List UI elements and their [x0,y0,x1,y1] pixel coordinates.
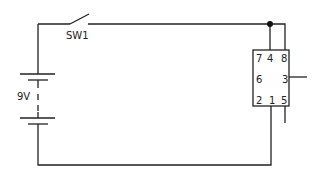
pin-3-label: 3 [282,74,288,85]
pin-5-label: 5 [281,95,287,106]
pin-1-label: 1 [269,95,275,106]
pin-8-label: 8 [281,53,287,64]
switch-sw1 [70,14,89,24]
schematic: SW1 9V 7 4 8 6 3 2 1 5 [0,0,327,178]
pin-2-label: 2 [256,95,262,106]
battery-label: 9V [17,91,30,102]
switch-label: SW1 [66,30,89,41]
wire-pin1-ground [38,106,271,165]
junction-dot [267,21,273,27]
pin-7-label: 7 [256,53,262,64]
circuit-diagram: SW1 9V 7 4 8 6 3 2 1 5 [0,0,327,178]
pin-4-label: 4 [267,53,273,64]
pin-6-label: 6 [256,74,262,85]
wire-top [88,24,285,50]
